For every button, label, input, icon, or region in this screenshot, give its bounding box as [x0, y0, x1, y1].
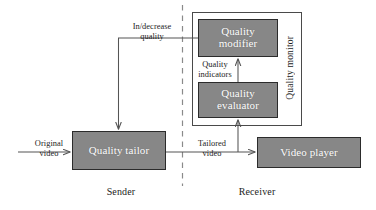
edge-label-tailored-video: Tailored video: [186, 139, 238, 159]
node-quality-modifier-label: Quality modifier: [199, 26, 277, 50]
node-quality-evaluator[interactable]: Quality evaluator: [198, 82, 278, 118]
edge-label-quality-indicators: Quality indicators: [192, 60, 238, 80]
section-label-sender: Sender: [88, 186, 154, 197]
group-quality-monitor-label: Quality monitor: [284, 36, 295, 100]
node-quality-tailor-label: Quality tailor: [86, 145, 152, 157]
diagram-canvas: Quality monitor Quality tailor Quality m…: [0, 0, 376, 210]
edge-label-in-decrease-quality: In/decrease quality: [114, 22, 190, 42]
node-video-player-label: Video player: [277, 147, 341, 159]
edge-label-original-video: Original video: [22, 139, 76, 159]
section-label-receiver: Receiver: [222, 186, 292, 197]
node-quality-tailor[interactable]: Quality tailor: [72, 131, 166, 170]
node-quality-modifier[interactable]: Quality modifier: [198, 19, 278, 57]
node-video-player[interactable]: Video player: [257, 137, 361, 168]
edge-in-decrease-quality: [119, 38, 199, 129]
node-quality-evaluator-label: Quality evaluator: [199, 88, 277, 112]
